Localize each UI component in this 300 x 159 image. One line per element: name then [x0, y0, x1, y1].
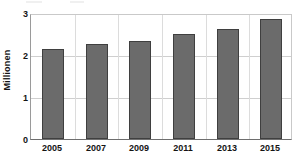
gridline-x-3	[162, 15, 163, 139]
plot-area	[30, 14, 292, 140]
y-axis-tick-labels: 0123	[12, 0, 28, 159]
bar-2005	[42, 49, 64, 139]
x-tick-label-2011: 2011	[173, 144, 193, 153]
y-axis-title-text: Millionen	[2, 50, 12, 91]
scan-artifact	[26, 1, 42, 3]
gridline-y-2	[31, 56, 291, 57]
y-tick-label-2: 2	[14, 52, 28, 61]
y-tick-label-0: 0	[14, 136, 28, 145]
x-tick-label-2013: 2013	[217, 144, 237, 153]
gridline-y-1	[31, 98, 291, 99]
x-tick-label-2007: 2007	[86, 144, 106, 153]
gridline-x-4	[206, 15, 207, 139]
scan-artifact	[70, 1, 84, 3]
x-tick-label-2009: 2009	[129, 144, 149, 153]
x-axis-tick-labels: 200520072009201120132015	[30, 142, 292, 159]
gridline-x-2	[118, 15, 119, 139]
gridline-y-3	[31, 14, 291, 15]
bar-2009	[129, 41, 151, 139]
y-tick-label-1: 1	[14, 94, 28, 103]
gridline-x-1	[75, 15, 76, 139]
y-tick-label-3: 3	[14, 10, 28, 19]
bar-2007	[86, 44, 108, 139]
plot-inner	[31, 15, 291, 139]
x-tick-label-2015: 2015	[260, 144, 280, 153]
bar-2015	[260, 19, 282, 139]
bar-chart: Millionen 0123 200520072009201120132015	[0, 0, 300, 159]
bar-2013	[217, 29, 239, 139]
bar-2011	[173, 34, 195, 139]
gridline-x-5	[249, 15, 250, 139]
x-tick-label-2005: 2005	[42, 144, 62, 153]
